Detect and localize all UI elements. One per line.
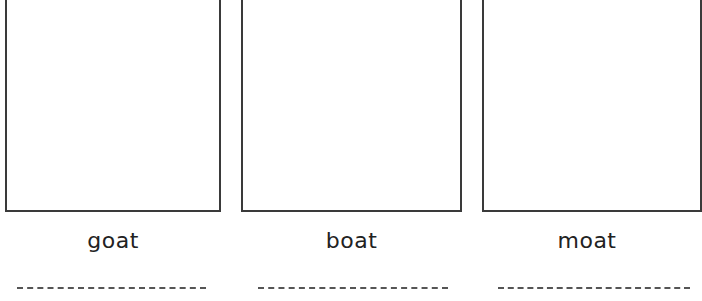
- card-moat: moat: [0, 0, 240, 301]
- writing-line[interactable]: [498, 287, 690, 289]
- drawing-box[interactable]: [241, 0, 462, 212]
- word-label: moat: [482, 228, 692, 253]
- writing-line[interactable]: [258, 287, 448, 289]
- drawing-box[interactable]: [482, 0, 702, 212]
- word-label: boat: [241, 228, 462, 253]
